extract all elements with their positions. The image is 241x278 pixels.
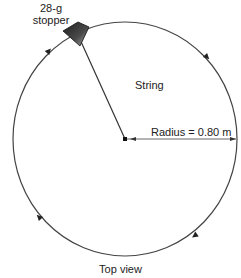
stopper-label-name: stopper — [24, 14, 78, 26]
direction-arrows — [35, 46, 212, 239]
radius-arrow-left-icon — [130, 137, 136, 141]
string-label: String — [135, 79, 164, 91]
stopper-label-mass: 28-g — [24, 2, 78, 14]
center-point — [123, 137, 127, 141]
radius-label: Radius = 0.80 m — [151, 126, 231, 138]
circular-motion-diagram — [0, 0, 241, 278]
stopper-label: 28-g stopper — [24, 2, 78, 26]
string-line — [78, 35, 125, 139]
view-caption: Top view — [0, 263, 241, 275]
